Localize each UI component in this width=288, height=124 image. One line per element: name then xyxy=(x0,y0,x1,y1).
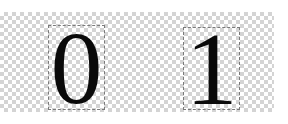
digit-zero-glyph: 0 xyxy=(51,16,103,120)
glyph-bounding-box-1[interactable]: 1 xyxy=(183,27,240,110)
digit-one-glyph: 1 xyxy=(186,17,238,121)
glyph-bounding-box-0[interactable]: 0 xyxy=(48,25,105,110)
